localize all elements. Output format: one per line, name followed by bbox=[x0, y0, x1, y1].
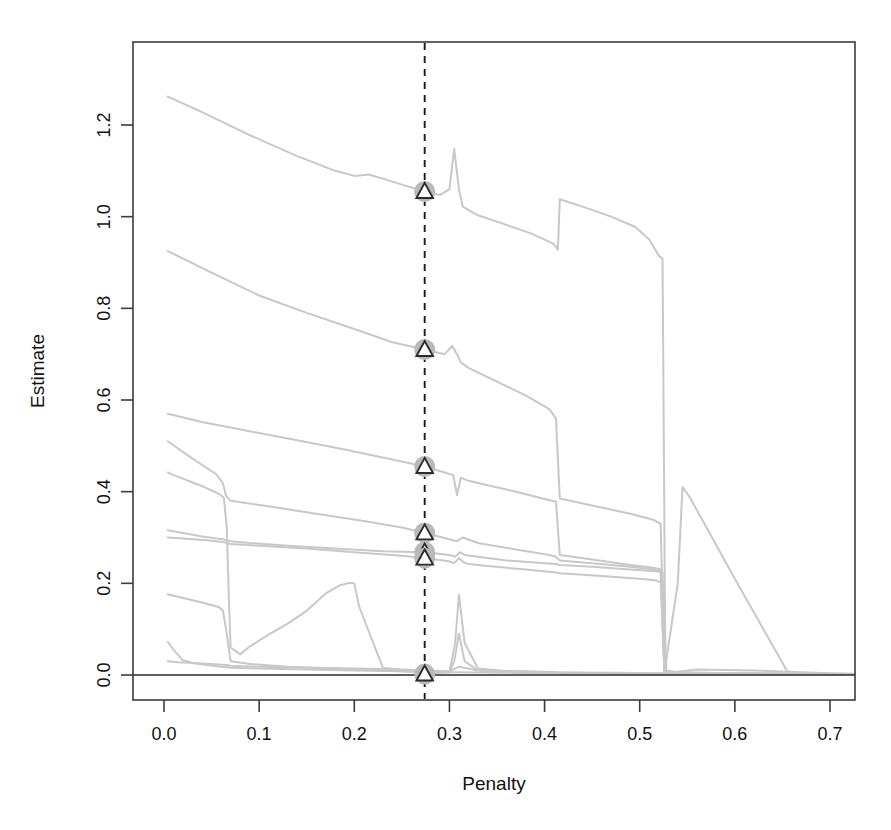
x-tick-label: 0.3 bbox=[437, 724, 462, 744]
coefficient-path-plot: 0.00.10.20.30.40.50.60.7 0.00.20.40.60.8… bbox=[0, 0, 891, 830]
x-axis-title: Penalty bbox=[462, 773, 526, 794]
x-tick-label: 0.0 bbox=[151, 724, 176, 744]
y-tick-label: 1.0 bbox=[94, 204, 114, 229]
y-tick-label: 0.0 bbox=[94, 662, 114, 687]
x-tick-label: 0.4 bbox=[532, 724, 557, 744]
x-tick-label: 0.5 bbox=[627, 724, 652, 744]
y-tick-label: 0.2 bbox=[94, 571, 114, 596]
y-tick-label: 0.4 bbox=[94, 479, 114, 504]
y-tick-label: 0.8 bbox=[94, 296, 114, 321]
y-axis-title: Estimate bbox=[27, 334, 48, 408]
y-tick-label: 1.2 bbox=[94, 112, 114, 137]
x-tick-label: 0.6 bbox=[722, 724, 747, 744]
y-tick-label: 0.6 bbox=[94, 387, 114, 412]
chart-page: 0.00.10.20.30.40.50.60.7 0.00.20.40.60.8… bbox=[0, 0, 891, 830]
x-tick-label: 0.7 bbox=[817, 724, 842, 744]
x-tick-label: 0.1 bbox=[247, 724, 272, 744]
x-tick-label: 0.2 bbox=[342, 724, 367, 744]
